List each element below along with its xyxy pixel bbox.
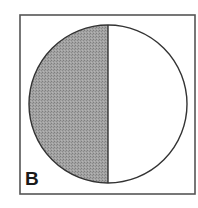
panel-label: B bbox=[25, 169, 39, 188]
shaded-left-half bbox=[29, 25, 108, 183]
